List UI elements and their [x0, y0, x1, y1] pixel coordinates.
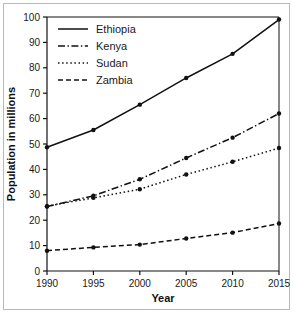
data-point-zambia-2000 — [138, 242, 142, 246]
legend-label-zambia: Zambia — [96, 74, 134, 86]
legend-label-kenya: Kenya — [96, 40, 128, 52]
x-tick-label: 2010 — [221, 278, 244, 289]
x-tick-label: 1990 — [36, 278, 59, 289]
x-axis-title: Year — [151, 292, 175, 304]
legend-label-sudan: Sudan — [96, 57, 128, 69]
x-tick-label: 2015 — [268, 278, 291, 289]
data-point-kenya-2000 — [138, 177, 142, 181]
data-point-ethiopia-2010 — [230, 52, 234, 56]
data-point-sudan-2000 — [138, 187, 142, 191]
x-tick-label: 2000 — [129, 278, 152, 289]
data-point-zambia-2005 — [184, 236, 188, 240]
data-point-kenya-2005 — [184, 156, 188, 160]
line-chart: 0102030405060708090100199019952000200520… — [0, 0, 293, 313]
data-point-ethiopia-1995 — [91, 128, 95, 132]
data-point-ethiopia-2000 — [138, 102, 142, 106]
data-point-kenya-2015 — [277, 111, 281, 115]
x-tick-label: 1995 — [82, 278, 105, 289]
data-point-sudan-1995 — [91, 196, 95, 200]
data-point-zambia-2015 — [277, 221, 281, 225]
legend-label-ethiopia: Ethiopia — [96, 23, 137, 35]
data-point-kenya-2010 — [230, 135, 234, 139]
y-tick-label: 30 — [29, 189, 41, 200]
data-point-sudan-1990 — [45, 204, 49, 208]
data-point-ethiopia-2005 — [184, 76, 188, 80]
y-tick-label: 90 — [29, 37, 41, 48]
chart-figure: 0102030405060708090100199019952000200520… — [0, 0, 293, 313]
data-point-sudan-2005 — [184, 172, 188, 176]
y-tick-label: 60 — [29, 113, 41, 124]
y-tick-label: 0 — [34, 266, 40, 277]
data-point-zambia-1995 — [91, 245, 95, 249]
data-point-zambia-2010 — [230, 230, 234, 234]
data-point-zambia-1990 — [45, 248, 49, 252]
data-point-sudan-2015 — [277, 146, 281, 150]
y-tick-label: 100 — [23, 12, 40, 23]
data-point-ethiopia-2015 — [277, 17, 281, 21]
y-axis-title: Population in millions — [5, 87, 17, 201]
data-point-sudan-2010 — [230, 160, 234, 164]
plot-area — [47, 17, 279, 271]
y-tick-label: 10 — [29, 240, 41, 251]
y-tick-label: 40 — [29, 164, 41, 175]
data-point-ethiopia-1990 — [45, 145, 49, 149]
y-tick-label: 80 — [29, 62, 41, 73]
y-tick-label: 70 — [29, 88, 41, 99]
y-tick-label: 20 — [29, 215, 41, 226]
x-tick-label: 2005 — [175, 278, 198, 289]
y-tick-label: 50 — [29, 139, 41, 150]
